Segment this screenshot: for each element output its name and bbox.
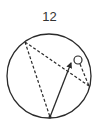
dashed-chord-a-c [25, 42, 50, 117]
point-c-dot [49, 116, 52, 119]
point-q-marker [74, 56, 82, 64]
outer-circle [7, 34, 91, 118]
arrow-vector [50, 63, 71, 117]
circle-diagram [0, 0, 99, 136]
